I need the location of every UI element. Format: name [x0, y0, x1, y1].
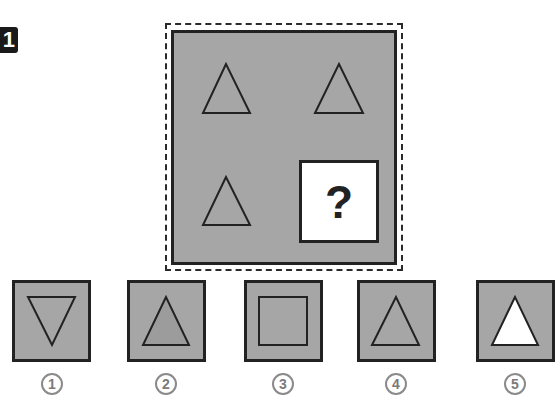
option-2-label: 2 [155, 373, 177, 395]
option-5-label: 5 [504, 373, 526, 395]
option-3-label: 3 [272, 373, 294, 395]
triangle-up-icon [143, 297, 189, 345]
square-icon [259, 297, 307, 345]
option-4-label: 4 [385, 373, 407, 395]
option-1-label: 1 [41, 373, 63, 395]
option-shapes [0, 0, 559, 402]
triangle-up-icon [372, 297, 419, 345]
triangle-up-white-icon [492, 297, 538, 345]
triangle-down-icon [28, 297, 75, 345]
